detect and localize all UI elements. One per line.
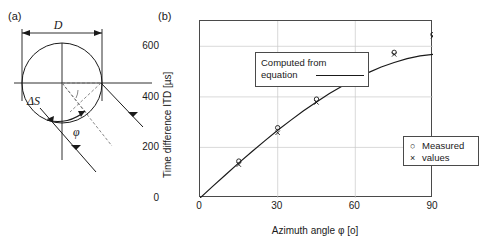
legend-measured-line1: Measured	[422, 140, 464, 151]
angle-arc	[76, 90, 78, 98]
panel-b-chart: (b) Time difference ITD [µs] Azimuth ang…	[150, 0, 446, 248]
legend-computed: Computed from equation	[255, 52, 369, 87]
y-tick-label: 200	[142, 141, 159, 152]
legend-measured: ○ × Measured values	[403, 136, 479, 166]
x-tick-label: 90	[426, 200, 437, 211]
y-tick-label: 400	[142, 90, 159, 101]
plot-area: Computed from equation ○ × Measured valu…	[199, 20, 432, 197]
legend-computed-line1: Computed from	[261, 57, 326, 68]
y-tick-label: 600	[142, 40, 159, 51]
plot-canvas	[200, 21, 433, 198]
legend-measured-line2: values	[422, 152, 449, 163]
delta-s-label: ΔS	[26, 94, 40, 108]
y-tick-label: 0	[153, 192, 159, 203]
diameter-label: D	[53, 18, 63, 32]
azimuth-angle-label: φ	[73, 125, 80, 139]
x-tick-label: 60	[349, 200, 360, 211]
sound-ray-upper	[101, 83, 143, 127]
y-axis-title: Time difference ITD [µs]	[162, 72, 173, 178]
legend-cross-marker-icon: ×	[410, 154, 415, 163]
panel-b-label: (b)	[158, 10, 171, 22]
construction-lines	[62, 83, 112, 146]
sound-ray-lower	[40, 108, 96, 172]
grid-lines	[200, 21, 433, 198]
x-tick-label: 30	[271, 200, 282, 211]
x-axis-title: Azimuth angle φ [o]	[272, 225, 359, 236]
legend-circle-marker-icon: ○	[410, 142, 415, 151]
x-tick-label: 0	[196, 200, 202, 211]
legend-line-sample	[316, 75, 364, 76]
legend-computed-line2: equation	[261, 69, 297, 80]
